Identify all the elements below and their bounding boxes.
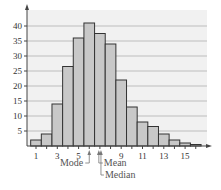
median-label: Median <box>105 169 136 180</box>
y-tick-label: 35 <box>13 36 23 46</box>
bar <box>84 23 95 146</box>
bar <box>158 134 169 146</box>
x-tick-label: 1 <box>34 151 39 161</box>
mean-label: Mean <box>104 157 127 168</box>
y-tick-label: 40 <box>13 21 23 31</box>
x-tick-label: 13 <box>159 151 169 161</box>
y-tick-label: 20 <box>13 81 23 91</box>
bar <box>52 104 63 146</box>
bar <box>105 44 116 146</box>
bar <box>169 140 180 146</box>
bar <box>148 127 159 147</box>
y-tick-label: 30 <box>13 51 23 61</box>
y-axis-arrow-icon <box>25 4 29 10</box>
x-tick-label: 15 <box>181 151 191 161</box>
bar <box>73 38 84 146</box>
annotations: ModeMeanMedian <box>60 150 136 180</box>
bar <box>63 67 74 147</box>
x-tick-label: 11 <box>138 151 147 161</box>
bar <box>41 134 52 146</box>
bar <box>116 80 127 146</box>
bar <box>127 107 138 146</box>
mode-label: Mode <box>60 157 84 168</box>
y-tick-label: 5 <box>18 126 23 136</box>
y-tick-label: 25 <box>13 66 23 76</box>
y-tick-labels: 510152025303540 <box>13 21 27 136</box>
bar <box>137 122 148 146</box>
y-tick-label: 10 <box>13 111 23 121</box>
bar <box>31 140 42 146</box>
y-tick-label: 15 <box>13 96 23 106</box>
histogram-chart: 510152025303540 1359111315 ModeMeanMedia… <box>0 0 221 190</box>
arrow-up-icon <box>87 150 91 155</box>
mode-leader-line <box>85 155 89 163</box>
bar <box>95 34 106 147</box>
x-axis-arrow-icon <box>206 144 212 148</box>
